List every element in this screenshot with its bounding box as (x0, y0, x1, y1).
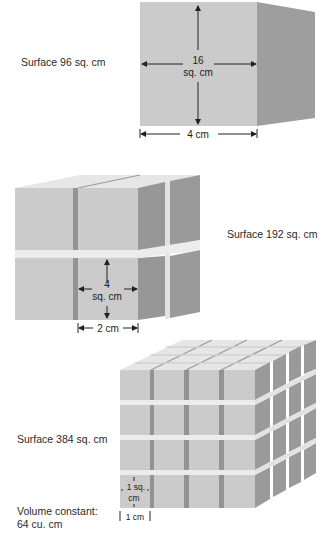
sixty-four-cubes: 1 sq. cm 1 cm (120, 340, 316, 522)
face-area-value: 16 (192, 55, 204, 66)
eight-cubes: 4 sq. cm 2 cm (15, 175, 200, 334)
edge-label: 2 cm (97, 323, 119, 334)
surface-area-diagram: 16 sq. cm 4 cm 4 (0, 0, 326, 541)
edge-label: 1 cm (126, 512, 144, 522)
edge-label: 4 cm (187, 129, 209, 140)
face-area-unit: cm (128, 493, 139, 503)
single-cube: 16 sq. cm 4 cm (140, 2, 315, 140)
face-area-value: 4 (104, 279, 110, 290)
face-area-value: 1 sq. (127, 482, 145, 492)
face-area-unit: sq. cm (92, 291, 121, 302)
face-area-unit: sq. cm (183, 67, 212, 78)
cube-side-face (257, 2, 315, 126)
